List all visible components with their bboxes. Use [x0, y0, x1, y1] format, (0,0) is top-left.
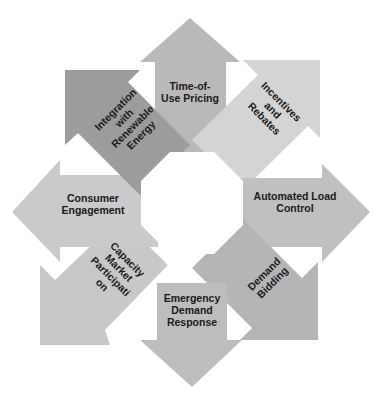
- center-octagon: [141, 152, 243, 254]
- label-line: Automated Load: [240, 190, 350, 202]
- label-consumer-engagement: Consumer Engagement: [48, 192, 138, 216]
- label-line: Time-of-: [150, 80, 230, 92]
- label-line: Demand: [152, 304, 232, 316]
- label-line: Emergency: [152, 292, 232, 304]
- label-line: Response: [152, 316, 232, 328]
- label-line: Control: [240, 202, 350, 214]
- label-emergency-demand-response: Emergency Demand Response: [152, 292, 232, 328]
- label-line: Consumer: [48, 192, 138, 204]
- label-line: Engagement: [48, 204, 138, 216]
- label-automated-load-control: Automated Load Control: [240, 190, 350, 214]
